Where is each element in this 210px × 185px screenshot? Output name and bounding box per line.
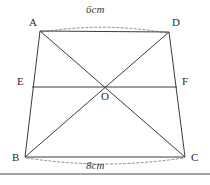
segment-side-DC bbox=[169, 32, 185, 157]
vertex-label-e: E bbox=[17, 76, 24, 87]
vertex-label-b: B bbox=[12, 152, 19, 163]
bottom-measurement-label: 8cm bbox=[86, 160, 104, 171]
geometry-figure: A D B C E F O 6cm 8cm bbox=[0, 0, 210, 185]
vertex-label-o: O bbox=[101, 91, 109, 102]
vertex-label-f: F bbox=[182, 76, 188, 87]
vertex-label-c: C bbox=[191, 152, 198, 163]
bottom-measure-arc bbox=[27, 158, 183, 164]
segment-side-AB bbox=[25, 31, 40, 157]
segment-diagonal-BD bbox=[25, 32, 169, 157]
segment-diagonal-AC bbox=[40, 31, 185, 157]
vertex-label-d: D bbox=[172, 17, 180, 28]
vertex-label-a: A bbox=[29, 17, 37, 28]
segment-side-AD bbox=[40, 31, 169, 32]
top-measurement-label: 6cm bbox=[86, 4, 104, 15]
